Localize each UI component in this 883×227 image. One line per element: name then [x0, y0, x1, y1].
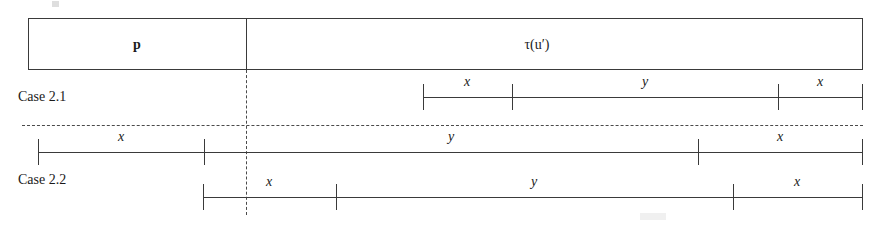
case-2-1-axis [423, 97, 863, 98]
case-2-2-row-2-segment-label-x2: x [794, 175, 800, 189]
case-separator-dashed-line [22, 125, 863, 126]
scan-smudge-artifact [640, 213, 666, 220]
case-2-1-segment-label-x1: x [464, 75, 470, 89]
case-2-2-caption: Case 2.2 [18, 173, 66, 187]
case-2-1-tick-1 [512, 84, 513, 110]
top-box [28, 18, 863, 70]
case-2-2-row-1-axis [38, 152, 863, 153]
case-2-2-row-1-tick-2 [698, 139, 699, 165]
box-divider [246, 18, 247, 70]
scan-speck-artifact [52, 1, 59, 7]
case-2-2-row-2-tick-1 [336, 184, 337, 210]
case-2-2-row-2-tick-2 [733, 184, 734, 210]
case-2-1-segment-label-y: y [642, 75, 648, 89]
case-2-1-tick-end [862, 84, 863, 110]
case-2-2-row-1-segment-label-y: y [448, 130, 454, 144]
box-label-tau-u-prime: τ(u′) [524, 38, 549, 52]
case-2-2-row-1-segment-label-x2: x [777, 130, 783, 144]
case-2-2-row-2-tick-end [862, 184, 863, 210]
case-analysis-figure: p τ(u′) Case 2.1 x y x Case 2.2 x y x x … [0, 0, 883, 227]
case-2-2-row-1-tick-start [38, 139, 39, 165]
case-2-2-row-2-segment-label-y: y [531, 175, 537, 189]
case-2-2-row-2-axis [203, 197, 862, 198]
case-2-2-row-2-segment-label-x1: x [266, 175, 272, 189]
alignment-guide-line [246, 70, 247, 215]
case-2-2-row-1-segment-label-x1: x [118, 130, 124, 144]
case-2-1-segment-label-x2: x [817, 75, 823, 89]
case-2-2-row-1-tick-1 [204, 139, 205, 165]
case-2-1-tick-2 [778, 84, 779, 110]
box-label-p: p [133, 38, 141, 52]
case-2-2-row-1-tick-end [862, 139, 863, 165]
case-2-1-tick-start [423, 84, 424, 110]
case-2-1-caption: Case 2.1 [18, 90, 66, 104]
case-2-2-row-2-tick-start [203, 184, 204, 210]
